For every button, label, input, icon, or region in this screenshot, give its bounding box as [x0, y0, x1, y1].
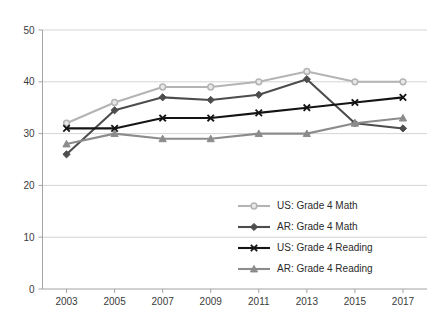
series-ar-grade-4-reading [63, 114, 407, 146]
y-axis [39, 30, 43, 289]
data-point-marker [208, 84, 214, 90]
data-point-marker [304, 69, 310, 75]
x-tick-label: 2011 [248, 296, 270, 307]
data-point-marker [112, 100, 118, 106]
data-point-marker [251, 203, 257, 209]
data-point-marker [352, 79, 358, 85]
x-tick-label: 2017 [392, 296, 415, 307]
data-point-marker [160, 84, 166, 90]
legend-item-ar-grade-4-reading: AR: Grade 4 Reading [238, 263, 373, 274]
series-ar-grade-4-math [63, 76, 407, 158]
data-point-marker [400, 79, 406, 85]
y-axis-tick-labels: 01020304050 [23, 25, 35, 295]
data-point-marker [159, 94, 166, 101]
data-point-marker [250, 223, 257, 230]
gridlines [43, 30, 428, 237]
y-tick-label: 0 [29, 284, 35, 295]
x-tick-label: 2007 [152, 296, 175, 307]
y-tick-label: 50 [23, 25, 35, 36]
data-point-marker [256, 79, 262, 85]
x-tick-label: 2009 [200, 296, 223, 307]
legend-item-label: AR: Grade 4 Math [277, 221, 358, 232]
x-tick-label: 2013 [296, 296, 319, 307]
legend-item-label: AR: Grade 4 Reading [277, 263, 373, 274]
data-point-marker [255, 91, 262, 98]
x-tick-label: 2005 [103, 296, 126, 307]
y-tick-label: 40 [23, 76, 35, 87]
x-axis-tick-labels: 20032005200720092011201320152017 [55, 296, 414, 307]
chart-container: 01020304050 2003200520072009201120132015… [0, 0, 439, 324]
chart-legend: US: Grade 4 MathAR: Grade 4 MathUS: Grad… [238, 200, 373, 274]
y-tick-label: 30 [23, 128, 35, 139]
series-path [67, 79, 403, 154]
legend-item-us-grade-4-reading: US: Grade 4 Reading [238, 242, 373, 253]
legend-item-us-grade-4-math: US: Grade 4 Math [238, 200, 358, 211]
data-point-marker [399, 125, 406, 132]
y-tick-label: 10 [23, 232, 35, 243]
data-point-marker [207, 96, 214, 103]
legend-item-label: US: Grade 4 Reading [277, 242, 373, 253]
x-axis [43, 289, 428, 293]
x-tick-label: 2003 [55, 296, 78, 307]
line-chart: 01020304050 2003200520072009201120132015… [0, 0, 439, 324]
legend-item-label: US: Grade 4 Math [277, 200, 358, 211]
y-tick-label: 20 [23, 180, 35, 191]
legend-item-ar-grade-4-math: AR: Grade 4 Math [238, 221, 358, 232]
x-tick-label: 2015 [344, 296, 367, 307]
